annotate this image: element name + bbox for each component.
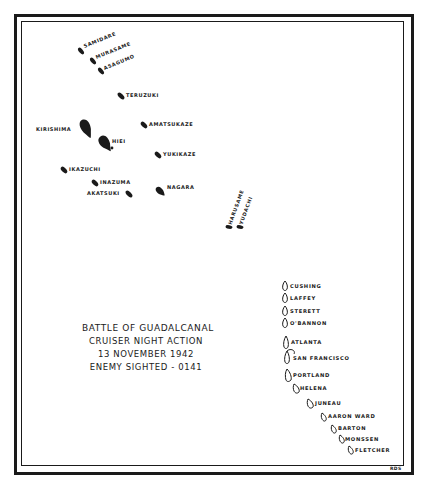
ship-label-helena: HELENA: [300, 386, 327, 391]
draftsman-initials: RDS: [390, 466, 402, 471]
ship-label-barton: BARTON: [338, 426, 366, 431]
ship-label-nagara: NAGARA: [167, 185, 194, 190]
ship-label-yukikaze: YUKIKAZE: [163, 152, 196, 157]
ship-label-inazuma: INAZUMA: [100, 180, 131, 185]
map-title: BATTLE OF GUADALCANAL: [82, 322, 210, 335]
ship-icon-fletcher: [348, 446, 353, 454]
map-time-note: ENEMY SIGHTED - 0141: [82, 361, 210, 374]
ship-label-juneau: JUNEAU: [315, 401, 341, 406]
map-subtitle: CRUISER NIGHT ACTION: [82, 335, 210, 348]
ship-icon-aaron-ward: [321, 413, 326, 421]
ship-icon-helena: [293, 384, 299, 393]
ship-icon-portland: [285, 369, 291, 382]
ship-label-san-francisco: SAN FRANCISCO: [293, 356, 350, 361]
map-date: 13 NOVEMBER 1942: [82, 348, 210, 361]
ship-label-cushing: CUSHING: [290, 284, 322, 289]
ship-icon-monssen: [339, 435, 344, 443]
map-title-block: BATTLE OF GUADALCANAL CRUISER NIGHT ACTI…: [82, 322, 210, 374]
ship-label-atlanta: ATLANTA: [291, 340, 322, 345]
ship-label-sterett: STERETT: [290, 309, 320, 314]
ship-icon-laffey: [283, 293, 288, 303]
ship-label-aaron-ward: AARON WARD: [328, 414, 375, 419]
ship-icon-sterett: [283, 306, 288, 316]
ship-icon-san-francisco: [285, 351, 290, 364]
ship-label-laffey: LAFFEY: [290, 296, 316, 301]
ship-icon-cushing: [283, 281, 288, 291]
ship-label-portland: PORTLAND: [293, 373, 330, 378]
ship-label-teruzuki: TERUZUKI: [126, 93, 159, 98]
ship-label-fletcher: FLETCHER: [355, 448, 390, 453]
ship-label-amatsukaze: AMATSUKAZE: [149, 122, 193, 127]
ship-label-obannon: O'BANNON: [290, 321, 327, 326]
ship-label-akatsuki: AKATSUKI: [87, 191, 120, 196]
ship-label-ikazuchi: IKAZUCHI: [69, 167, 101, 172]
ship-label-monssen: MONSSEN: [345, 437, 379, 442]
ship-label-hiei: HIEI: [112, 139, 126, 144]
ship-icon-atlanta: [284, 336, 289, 349]
ship-label-kirishima: KIRISHIMA: [36, 127, 71, 132]
ship-icon-juneau: [307, 399, 313, 408]
ship-icon-obannon: [283, 318, 288, 328]
ship-icon-barton: [331, 425, 336, 433]
